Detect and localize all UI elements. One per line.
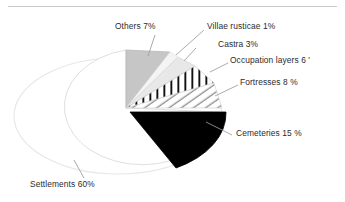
chart-canvas: Others 7% Villae rusticae 1% Castra 3% O… [0, 0, 345, 202]
label-castra: Castra 3% [218, 40, 258, 48]
label-fortresses: Fortresses 8 % [240, 78, 298, 86]
leader-fortresses [215, 85, 238, 96]
label-villae-rusticae: Villae rusticae 1% [207, 22, 275, 30]
label-cemeteries: Cemeteries 15 % [236, 129, 302, 137]
label-settlements: Settlements 60% [30, 180, 95, 188]
label-occupation-layers: Occupation layers 6 ' [230, 56, 310, 64]
label-others: Others 7% [115, 22, 155, 30]
pie-chart-graphic [0, 0, 345, 202]
leader-castra [184, 48, 196, 61]
leader-occupation [210, 63, 228, 72]
leader-villae [176, 30, 204, 55]
